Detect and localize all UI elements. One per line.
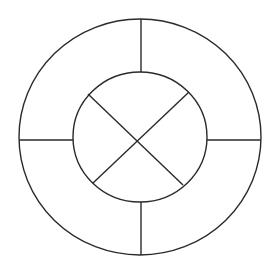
ring-diagram <box>0 0 277 270</box>
background <box>0 0 277 270</box>
